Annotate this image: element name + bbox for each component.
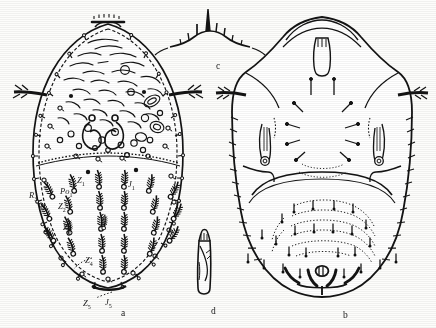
figure-caption-a: a <box>121 309 125 319</box>
label-J5: J5 <box>105 298 112 309</box>
label-Z2: Z2 <box>58 202 66 213</box>
label-Z4: Z4 <box>85 256 93 267</box>
figure-a-dorsal <box>13 14 203 298</box>
label-Z1: Z1 <box>77 176 85 187</box>
figure-caption-b: b <box>343 311 348 321</box>
figure-d-appendage <box>198 230 211 295</box>
ventral-tritosternum <box>314 38 331 76</box>
label-Z3: Z3 <box>63 223 71 234</box>
ventral-peritreme-right <box>374 124 385 165</box>
illustration-plate: Z1 Po1 J1 R3 Z2 Z3 Z4 Z5 J5 a b c d <box>0 0 436 328</box>
figure-c-profile <box>155 9 265 55</box>
label-Z5: Z5 <box>83 299 91 310</box>
figure-caption-d: d <box>211 307 216 317</box>
plate-artwork <box>0 0 436 328</box>
figure-b-ventral <box>216 17 428 297</box>
figure-caption-c: c <box>216 62 220 72</box>
ventral-peritreme-left <box>260 124 271 165</box>
label-J1: J1 <box>128 180 135 191</box>
ventral-anal-opening <box>316 266 329 276</box>
label-Po1: Po1 <box>60 187 72 198</box>
label-R3: R3 <box>29 191 37 202</box>
